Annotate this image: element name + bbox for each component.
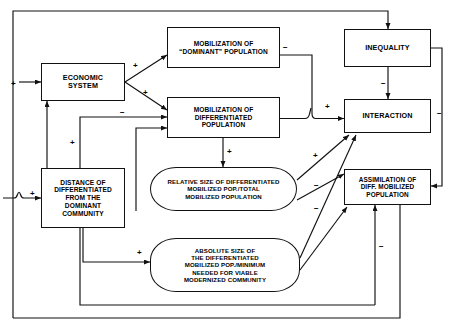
sign-into-interaction-left: + [325,103,330,111]
node-inequality-label: INEQUALITY [362,44,413,52]
node-relative-size[interactable]: RELATIVE SIZE OF DIFFERENTIATEDMOBILIZED… [150,167,297,211]
node-distance-differentiated-label: DISTANCE OFDIFFERENTIATEDFROM THEDOMINAN… [51,179,115,218]
sign-interaction-right: − [437,110,442,118]
node-assimilation-label: ASSIMILATION OFDIFF. MOBILIZEDPOPULATION [356,176,419,199]
sign-relative-to-assimilation: − [314,182,319,190]
sign-distance-to-differentiated: − [120,109,125,117]
node-mobilization-dominant[interactable]: MOBILIZATION OF“DOMINANT” POPULATION [167,27,280,68]
sign-economic-to-dominant: + [133,62,138,70]
sign-relative-to-interaction: + [313,152,318,160]
node-interaction-label: INTERACTION [359,112,415,120]
wire-distance-to-differentiated [80,117,167,168]
sign-assimilation-down: − [379,243,384,251]
sign-absolute-to-assimilation: − [314,205,319,213]
node-mobilization-differentiated-label: MOBILIZATION OFDIFFERENTIATEDPOPULATION [191,106,257,129]
wire-absolute-to-assimilation [300,207,347,270]
node-inequality[interactable]: INEQUALITY [344,29,431,67]
sign-inequality-to-interaction: − [381,80,386,88]
node-absolute-size-label: ABSOLUTE SIZE OFTHE DIFFERENTIATEDMOBILI… [181,247,269,283]
node-interaction[interactable]: INTERACTION [344,99,431,133]
node-distance-differentiated[interactable]: DISTANCE OFDIFFERENTIATEDFROM THEDOMINAN… [41,168,125,228]
wire-relative-to-interaction [297,135,349,180]
node-assimilation[interactable]: ASSIMILATION OFDIFF. MOBILIZEDPOPULATION [344,169,431,205]
sign-dominant-to-interaction: − [283,44,288,52]
node-relative-size-label: RELATIVE SIZE OF DIFFERENTIATEDMOBILIZED… [165,178,283,200]
sign-to-absolute: + [137,249,142,257]
wire-into-distance-left [3,192,41,198]
sign-into-economic-left: + [11,80,16,88]
node-mobilization-differentiated[interactable]: MOBILIZATION OFDIFFERENTIATEDPOPULATION [167,97,280,138]
node-economic-system-label: ECONOMICSYSTEM [60,74,106,91]
causal-loop-diagram: ECONOMICSYSTEM MOBILIZATION OF“DOMINANT”… [0,0,454,331]
sign-differentiated-to-relative: + [227,148,232,156]
node-absolute-size[interactable]: ABSOLUTE SIZE OFTHE DIFFERENTIATEDMOBILI… [150,238,300,292]
sign-economic-to-differentiated: + [143,89,148,97]
wire-relative-to-assimilation [297,174,344,200]
node-mobilization-dominant-label: MOBILIZATION OF“DOMINANT” POPULATION [176,40,271,56]
node-economic-system[interactable]: ECONOMICSYSTEM [41,63,125,101]
wire-economic-to-dominant [125,55,167,82]
sign-distance-up-economic: + [70,139,75,147]
wire-differentiated-to-interaction [280,108,311,119]
sign-into-distance-left: + [30,190,35,198]
wire-dominant-to-interaction [280,55,344,119]
